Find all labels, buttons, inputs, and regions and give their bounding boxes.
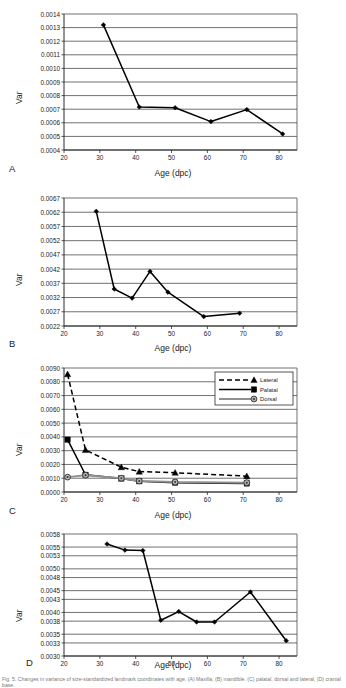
svg-text:20: 20: [60, 330, 68, 337]
svg-text:0.0043: 0.0043: [40, 596, 60, 603]
svg-text:0.0004: 0.0004: [40, 147, 60, 154]
svg-text:0.0012: 0.0012: [40, 38, 60, 45]
svg-text:0.0022: 0.0022: [40, 323, 60, 330]
svg-text:0.0011: 0.0011: [41, 51, 61, 58]
panel-a: 0.00040.00050.00060.00070.00080.00090.00…: [0, 0, 346, 178]
panel-c: 0.00000.00100.00200.00300.00400.00500.00…: [0, 358, 346, 526]
panel-c-ylabel: Var: [14, 443, 24, 456]
svg-text:0.0032: 0.0032: [40, 294, 60, 301]
svg-text:0.0014: 0.0014: [40, 11, 60, 18]
panel-a-xlabel: Age (dpc): [0, 168, 346, 178]
svg-text:Palatal: Palatal: [260, 387, 278, 393]
svg-text:0.0030: 0.0030: [40, 653, 60, 660]
svg-text:0.0062: 0.0062: [40, 209, 60, 216]
svg-text:70: 70: [240, 330, 248, 337]
svg-text:0.0013: 0.0013: [40, 24, 60, 31]
svg-text:Lateral: Lateral: [260, 377, 278, 383]
svg-text:70: 70: [240, 154, 248, 161]
panel-b-xlabel: Age (dpc): [0, 343, 346, 353]
panel-d: 0.00300.00330.00350.00380.00400.00430.00…: [0, 526, 346, 678]
svg-text:0.0050: 0.0050: [40, 565, 60, 572]
svg-text:0.0053: 0.0053: [40, 552, 60, 559]
svg-text:0.0000: 0.0000: [40, 489, 60, 496]
figure-caption: Fig. 5. Changes in variance of size-stan…: [2, 676, 344, 688]
svg-text:0.0055: 0.0055: [40, 544, 60, 551]
panel-a-ylabel: Var: [14, 91, 24, 104]
svg-text:0.0047: 0.0047: [40, 251, 60, 258]
svg-text:0.0010: 0.0010: [40, 65, 60, 72]
panel-d-ylabel: Var: [14, 609, 24, 622]
panel-d-xlabel: Age (dpc): [0, 660, 346, 670]
svg-text:50: 50: [168, 154, 176, 161]
svg-text:40: 40: [132, 330, 140, 337]
svg-text:30: 30: [96, 154, 104, 161]
svg-text:0.0040: 0.0040: [40, 433, 60, 440]
svg-text:0.0090: 0.0090: [40, 365, 60, 372]
svg-text:60: 60: [204, 496, 212, 503]
svg-text:0.0030: 0.0030: [40, 447, 60, 454]
svg-text:0.0038: 0.0038: [40, 618, 60, 625]
svg-text:0.0045: 0.0045: [40, 587, 60, 594]
svg-text:0.0057: 0.0057: [40, 223, 60, 230]
svg-text:0.0006: 0.0006: [40, 119, 60, 126]
panel-c-xlabel: Age (dpc): [0, 510, 346, 520]
svg-text:0.0080: 0.0080: [40, 378, 60, 385]
panel-d-plot: 0.00300.00330.00350.00380.00400.00430.00…: [0, 526, 346, 678]
svg-text:80: 80: [276, 496, 284, 503]
svg-text:40: 40: [132, 496, 140, 503]
svg-text:0.0037: 0.0037: [40, 280, 60, 287]
svg-text:0.0008: 0.0008: [40, 92, 60, 99]
svg-text:0.0005: 0.0005: [40, 133, 60, 140]
svg-text:80: 80: [276, 154, 284, 161]
svg-text:0.0027: 0.0027: [40, 308, 60, 315]
panel-b-ylabel: Var: [14, 273, 24, 286]
svg-text:0.0010: 0.0010: [40, 475, 60, 482]
svg-text:0.0070: 0.0070: [40, 392, 60, 399]
svg-text:0.0048: 0.0048: [40, 574, 60, 581]
svg-text:0.0067: 0.0067: [40, 195, 60, 202]
svg-text:0.0052: 0.0052: [40, 237, 60, 244]
svg-text:0.0058: 0.0058: [40, 531, 60, 538]
panel-a-plot: 0.00040.00050.00060.00070.00080.00090.00…: [0, 0, 346, 178]
svg-text:60: 60: [204, 154, 212, 161]
svg-text:0.0040: 0.0040: [40, 609, 60, 616]
svg-text:0.0060: 0.0060: [40, 406, 60, 413]
panel-b: 0.00220.00270.00320.00370.00420.00470.00…: [0, 186, 346, 358]
svg-text:70: 70: [240, 496, 248, 503]
svg-text:0.0035: 0.0035: [40, 631, 60, 638]
svg-text:30: 30: [96, 496, 104, 503]
svg-text:Dorsal: Dorsal: [260, 396, 277, 402]
svg-text:0.0009: 0.0009: [40, 79, 60, 86]
svg-text:30: 30: [96, 330, 104, 337]
svg-text:0.0020: 0.0020: [40, 461, 60, 468]
svg-text:80: 80: [276, 330, 284, 337]
svg-text:0.0042: 0.0042: [40, 266, 60, 273]
svg-text:0.0050: 0.0050: [40, 420, 60, 427]
svg-text:20: 20: [60, 496, 68, 503]
svg-text:60: 60: [204, 330, 212, 337]
svg-text:20: 20: [60, 154, 68, 161]
svg-text:0.0033: 0.0033: [40, 640, 60, 647]
panel-b-plot: 0.00220.00270.00320.00370.00420.00470.00…: [0, 186, 346, 358]
svg-text:0.0007: 0.0007: [40, 106, 60, 113]
svg-text:40: 40: [132, 154, 140, 161]
svg-text:50: 50: [168, 496, 176, 503]
svg-text:50: 50: [168, 330, 176, 337]
panel-c-plot: 0.00000.00100.00200.00300.00400.00500.00…: [0, 358, 346, 526]
